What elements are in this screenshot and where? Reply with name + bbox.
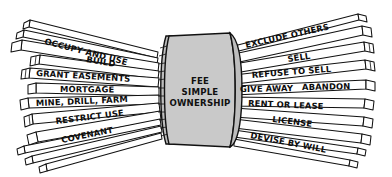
label-give-away: GIVE AWAY (240, 83, 294, 94)
center-binder: FEE SIMPLE OWNERSHIP (158, 33, 242, 147)
bundle-of-rights-diagram: FEE SIMPLE OWNERSHIP OCCUPY AND USE BUIL… (0, 0, 392, 177)
center-label-line-3: OWNERSHIP (169, 98, 230, 108)
label-mortgage: MORTGAGE (60, 84, 115, 94)
bundle-of-rights-illustration: FEE SIMPLE OWNERSHIP OCCUPY AND USE BUIL… (0, 0, 392, 177)
center-label-line-2: SIMPLE (182, 87, 219, 97)
label-sell: SELL (287, 51, 312, 64)
center-label-line-1: FEE (191, 76, 209, 86)
label-abandon: ABANDON (302, 81, 351, 92)
